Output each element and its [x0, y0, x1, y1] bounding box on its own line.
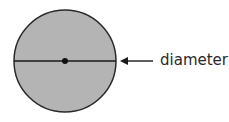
diameter-label: diameter — [160, 51, 228, 69]
arrow-head-icon — [120, 57, 128, 65]
center-point — [62, 58, 68, 64]
